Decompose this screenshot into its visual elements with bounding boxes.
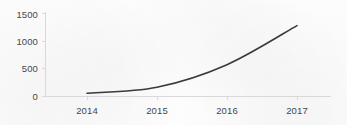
data-series-line <box>87 26 297 94</box>
y-tick-label-1500: 1500 <box>8 9 38 20</box>
x-tick-label-2016: 2016 <box>216 105 238 116</box>
x-tick-label-2015: 2015 <box>146 105 168 116</box>
x-tick-label-2014: 2014 <box>76 105 98 116</box>
x-tick-label-2017: 2017 <box>286 105 308 116</box>
x-axis-ticks <box>87 97 297 101</box>
y-tick-label-1000: 1000 <box>8 36 38 47</box>
y-tick-label-0: 0 <box>8 91 38 102</box>
line-chart: 1500 1000 500 0 2014 2015 2016 2017 <box>0 0 347 125</box>
y-tick-label-500: 500 <box>8 63 38 74</box>
y-axis-ticks <box>42 14 46 97</box>
